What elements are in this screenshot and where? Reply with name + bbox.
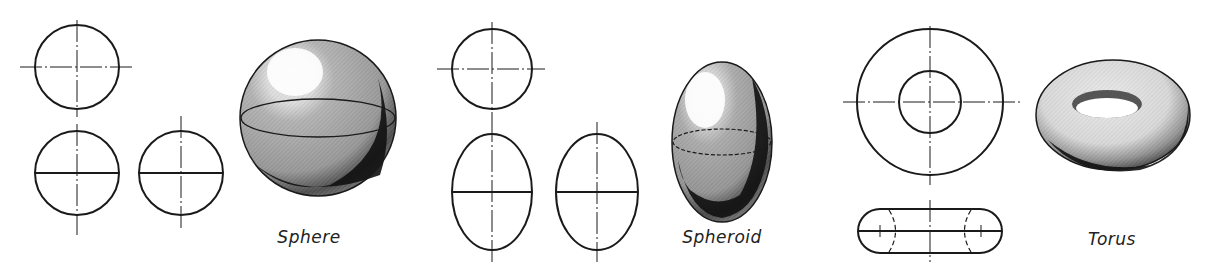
spheroid-front-view — [452, 120, 533, 264]
geometric-solids-diagram — [0, 0, 1208, 276]
sphere-pictorial — [240, 40, 396, 196]
sphere-top-view — [20, 20, 132, 117]
torus-front-view — [858, 200, 1002, 262]
torus-pictorial — [1036, 60, 1190, 171]
sphere-group — [20, 20, 396, 235]
sphere-front-view — [35, 124, 119, 235]
spheroid-pictorial — [672, 62, 772, 222]
sphere-side-view — [139, 116, 223, 231]
spheroid-label: Spheroid — [682, 227, 762, 247]
sphere-label: Sphere — [277, 227, 340, 247]
torus-top-view — [843, 26, 1020, 185]
torus-label: Torus — [1088, 229, 1136, 249]
spheroid-side-view — [556, 122, 638, 262]
torus-group — [843, 26, 1190, 262]
spheroid-top-view — [437, 22, 545, 120]
